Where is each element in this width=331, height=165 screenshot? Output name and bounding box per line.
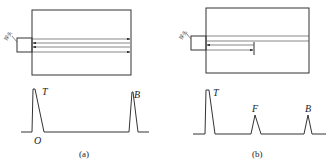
panel-b-waveform: T F B [193, 87, 326, 134]
panel-b-specimen: 探头 [178, 8, 309, 73]
caption-a: (a) [79, 149, 89, 159]
label-O-a: O [34, 135, 41, 146]
label-T-b: T [213, 87, 220, 98]
panel-a-waveform: T O B [21, 86, 149, 146]
specimen-block-b [206, 8, 309, 73]
specimen-block-a [32, 10, 131, 75]
caption-b: (b) [252, 149, 263, 159]
waveform-a [21, 89, 149, 132]
label-T-a: T [42, 86, 49, 97]
probe-label-b: 探头 [178, 29, 189, 41]
panel-a-specimen: 探头 [3, 10, 131, 75]
probe-b [191, 36, 206, 50]
label-F-b: F [251, 103, 259, 114]
probe-lead-a [12, 36, 17, 42]
label-B-b: B [305, 103, 311, 114]
ultrasonic-inspection-diagram: 探头 探头 T O B T F B (a) (b) [0, 0, 331, 165]
probe-a [17, 38, 32, 52]
label-B-a: B [134, 89, 140, 100]
probe-lead-b [186, 33, 191, 39]
